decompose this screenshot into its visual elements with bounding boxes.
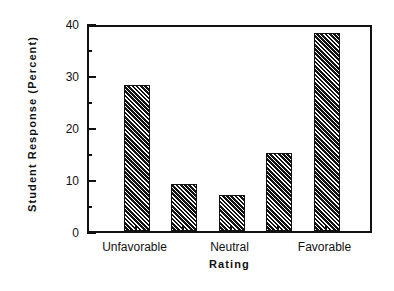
y-axis-tick-label: 40	[39, 18, 79, 32]
bar	[124, 85, 150, 231]
plot-area	[87, 25, 372, 233]
y-axis-tick	[87, 76, 96, 78]
y-axis-tick	[87, 128, 96, 130]
x-axis-tick	[182, 226, 184, 233]
y-axis-tick-label: 20	[39, 122, 79, 136]
x-axis-tick-label: Unfavorable	[102, 240, 167, 254]
y-axis-tick	[87, 24, 96, 26]
y-axis-tick	[87, 232, 96, 234]
bar	[219, 195, 245, 231]
x-axis-tick-label: Favorable	[298, 240, 351, 254]
y-axis-minor-tick	[87, 206, 92, 208]
x-axis-tick-label: Neutral	[210, 240, 249, 254]
bar-chart-figure: Student Response (Percent) 010203040 Unf…	[0, 0, 394, 291]
bars-group	[89, 27, 370, 231]
y-axis-tick-label: 30	[39, 70, 79, 84]
bar	[314, 33, 340, 231]
x-axis-tick	[277, 226, 279, 233]
y-axis-title: Student Response (Percent)	[26, 14, 38, 234]
y-axis-minor-tick	[87, 50, 92, 52]
bar	[171, 184, 197, 231]
y-axis-minor-tick	[87, 102, 92, 104]
y-axis-tick-label: 10	[39, 174, 79, 188]
x-axis-tick	[325, 226, 327, 233]
x-axis-tick	[230, 226, 232, 233]
x-axis-tick	[135, 226, 137, 233]
y-axis-tick-label: 0	[39, 226, 79, 240]
x-axis-title: Rating	[87, 258, 372, 270]
y-axis-minor-tick	[87, 154, 92, 156]
bar	[266, 153, 292, 231]
y-axis-tick	[87, 180, 96, 182]
